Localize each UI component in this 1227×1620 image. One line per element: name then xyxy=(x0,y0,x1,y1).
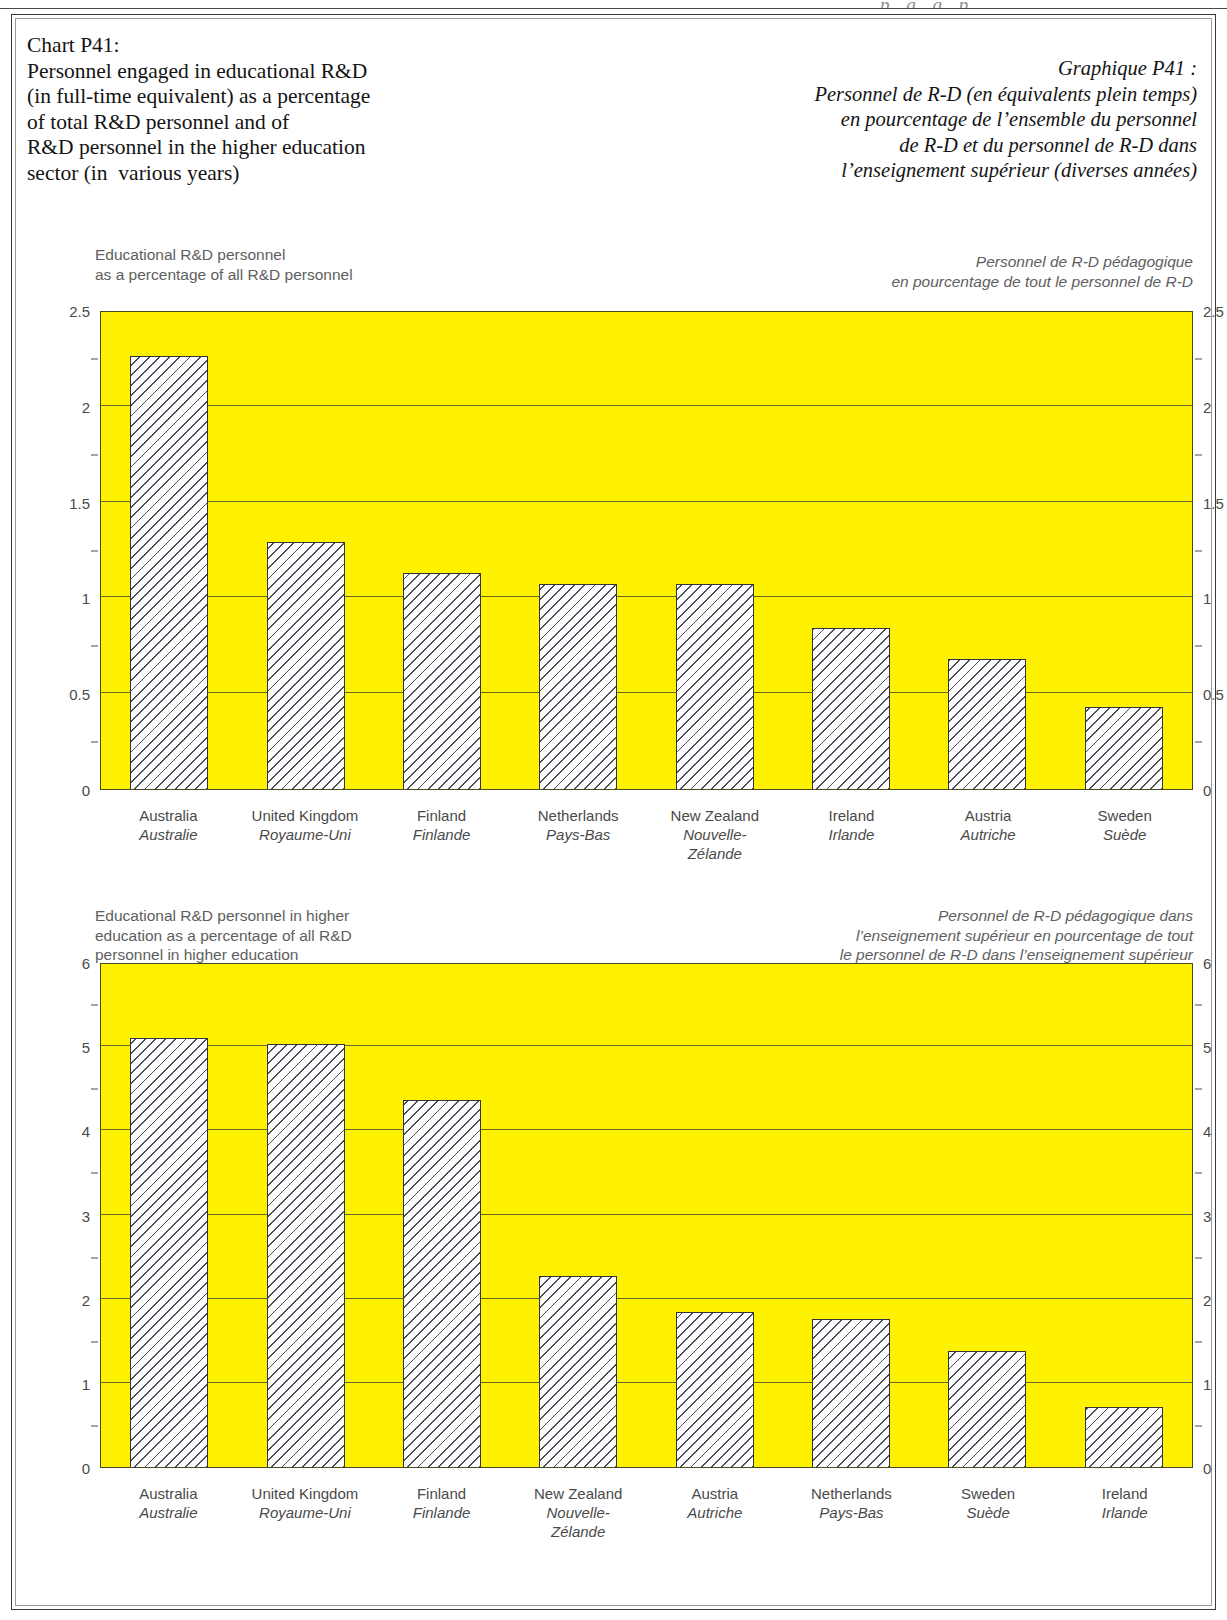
x-label-fr: Suède xyxy=(920,1503,1057,1522)
chart-bottom-y-axis-right: 0123456 xyxy=(1195,963,1227,1468)
x-label-en: Australia xyxy=(100,806,237,825)
chart-top-minor-tick-left-0.25 xyxy=(91,742,98,743)
chart-bottom-ytick-left-5: 5 xyxy=(82,1039,90,1056)
bar-australia xyxy=(130,1038,208,1467)
bar-ireland xyxy=(1085,1407,1163,1467)
chart-top-minor-tick-left-1.75 xyxy=(91,454,98,455)
chart-top-ytick-right-1: 1 xyxy=(1203,590,1211,607)
x-label-united-kingdom: United KingdomRoyaume-Uni xyxy=(237,1484,374,1541)
bar-united-kingdom xyxy=(267,542,345,789)
chart-bottom-ytick-left-0: 0 xyxy=(82,1460,90,1477)
chart-top-ytick-left-0: 0 xyxy=(82,782,90,799)
chart-bottom-minor-tick-right-5.5 xyxy=(1195,1005,1202,1006)
chart-top-ytick-right-2.5: 2.5 xyxy=(1203,303,1224,320)
chart-bottom-minor-tick-right-1.5 xyxy=(1195,1341,1202,1342)
chart-title-english: Chart P41:Personnel engaged in education… xyxy=(27,33,587,186)
title-en-line-2: Personnel engaged in educational R&D xyxy=(27,59,587,85)
bar-slot xyxy=(919,312,1055,789)
x-label-fr: Pays-Bas xyxy=(783,1503,920,1522)
bar-sweden xyxy=(1085,707,1163,789)
x-label-finland: FinlandFinlande xyxy=(373,1484,510,1541)
chart-top-y-axis-right: 00.511.522.5 xyxy=(1195,311,1227,790)
x-label-en: United Kingdom xyxy=(237,806,374,825)
chart-bottom-ytick-left-1: 1 xyxy=(82,1375,90,1392)
bar-slot xyxy=(1056,964,1192,1467)
x-label-en: Ireland xyxy=(783,806,920,825)
chart-top-ytick-right-0.5: 0.5 xyxy=(1203,686,1224,703)
chart-bottom-ytick-right-3: 3 xyxy=(1203,1207,1211,1224)
chart-bottom-minor-tick-right-4.5 xyxy=(1195,1089,1202,1090)
x-label-ireland: IrelandIrlande xyxy=(1056,1484,1193,1541)
x-label-fr: Australie xyxy=(100,1503,237,1522)
bar-new-zealand xyxy=(676,584,754,789)
x-label-en: United Kingdom xyxy=(237,1484,374,1503)
chart-top-bars xyxy=(101,312,1192,789)
x-label-en: Australia xyxy=(100,1484,237,1503)
chart-top-subtitle-fr-line-1: Personnel de R-D pédagogique xyxy=(553,252,1193,272)
x-label-fr: Autriche xyxy=(647,1503,784,1522)
bar-netherlands xyxy=(812,1319,890,1467)
x-label-fr: Suède xyxy=(1056,825,1193,844)
x-label-fr: Australie xyxy=(100,825,237,844)
x-label-ireland: IrelandIrlande xyxy=(783,806,920,863)
x-label-en: Netherlands xyxy=(783,1484,920,1503)
chart-top-plot-background xyxy=(100,311,1193,790)
x-label-en: Finland xyxy=(373,806,510,825)
chart-bottom-bars xyxy=(101,964,1192,1467)
chart-bottom-ytick-left-2: 2 xyxy=(82,1291,90,1308)
chart-bottom-minor-tick-right-0.5 xyxy=(1195,1425,1202,1426)
chart-bottom-minor-tick-left-0.5 xyxy=(91,1425,98,1426)
x-label-en: Austria xyxy=(920,806,1057,825)
chart-bottom-ytick-right-2: 2 xyxy=(1203,1291,1211,1308)
chart-top-minor-tick-right-0.75 xyxy=(1195,646,1202,647)
bar-slot xyxy=(237,312,373,789)
title-en-line-3: (in full-time equivalent) as a percentag… xyxy=(27,84,587,110)
chart-bottom-minor-tick-left-1.5 xyxy=(91,1341,98,1342)
chart-top-plot-area xyxy=(100,311,1193,790)
chart-bottom-x-axis-labels: AustraliaAustralieUnited KingdomRoyaume-… xyxy=(100,1484,1193,1541)
chart-top-ytick-left-1.5: 1.5 xyxy=(69,494,90,511)
x-label-en: Netherlands xyxy=(510,806,647,825)
x-label-en: Sweden xyxy=(920,1484,1057,1503)
chart-top-ytick-left-2: 2 xyxy=(82,398,90,415)
title-en-line-1: Chart P41: xyxy=(27,33,587,59)
bar-slot xyxy=(374,964,510,1467)
bar-slot xyxy=(647,312,783,789)
bar-slot xyxy=(510,312,646,789)
bar-slot xyxy=(1056,312,1192,789)
chart-top-ytick-right-0: 0 xyxy=(1203,782,1211,799)
x-label-austria: AustriaAutriche xyxy=(647,1484,784,1541)
bar-slot xyxy=(919,964,1055,1467)
title-fr-line-1: Graphique P41 : xyxy=(557,56,1197,82)
chart-top-x-axis-labels: AustraliaAustralieUnited KingdomRoyaume-… xyxy=(100,806,1193,863)
chart-bottom-ytick-right-6: 6 xyxy=(1203,955,1211,972)
x-label-fr: Nouvelle-Zélande xyxy=(647,825,784,863)
x-label-netherlands: NetherlandsPays-Bas xyxy=(510,806,647,863)
chart-bottom-ytick-left-3: 3 xyxy=(82,1207,90,1224)
title-en-line-6: sector (in various years) xyxy=(27,161,587,187)
chart-bottom-minor-tick-right-3.5 xyxy=(1195,1173,1202,1174)
chart-bottom-minor-tick-left-3.5 xyxy=(91,1173,98,1174)
chart-top-minor-tick-right-0.25 xyxy=(1195,742,1202,743)
chart-top-y-axis-left: 00.511.522.5 xyxy=(42,311,98,790)
x-label-australia: AustraliaAustralie xyxy=(100,1484,237,1541)
x-label-netherlands: NetherlandsPays-Bas xyxy=(783,1484,920,1541)
bar-slot xyxy=(783,312,919,789)
chart-top-ytick-right-1.5: 1.5 xyxy=(1203,494,1224,511)
chart-bottom-y-axis-left: 0123456 xyxy=(42,963,98,1468)
bar-slot xyxy=(510,964,646,1467)
x-label-austria: AustriaAutriche xyxy=(920,806,1057,863)
chart-bottom-subtitle-french: Personnel de R-D pédagogique dansl’ensei… xyxy=(533,906,1193,965)
chart-bottom-subtitle-fr-line-1: Personnel de R-D pédagogique dans xyxy=(533,906,1193,926)
chart-bottom-subtitle-fr-line-3: le personnel de R-D dans l’enseignement … xyxy=(533,945,1193,965)
chart-bottom-minor-tick-left-4.5 xyxy=(91,1089,98,1090)
title-en-line-5: R&D personnel in the higher education xyxy=(27,135,587,161)
bar-slot xyxy=(374,312,510,789)
bar-slot xyxy=(783,964,919,1467)
x-label-fr: Nouvelle-Zélande xyxy=(510,1503,647,1541)
chart-top-minor-tick-left-1.25 xyxy=(91,550,98,551)
x-label-australia: AustraliaAustralie xyxy=(100,806,237,863)
bar-slot xyxy=(647,964,783,1467)
bar-austria xyxy=(948,659,1026,789)
x-label-fr: Finlande xyxy=(373,1503,510,1522)
